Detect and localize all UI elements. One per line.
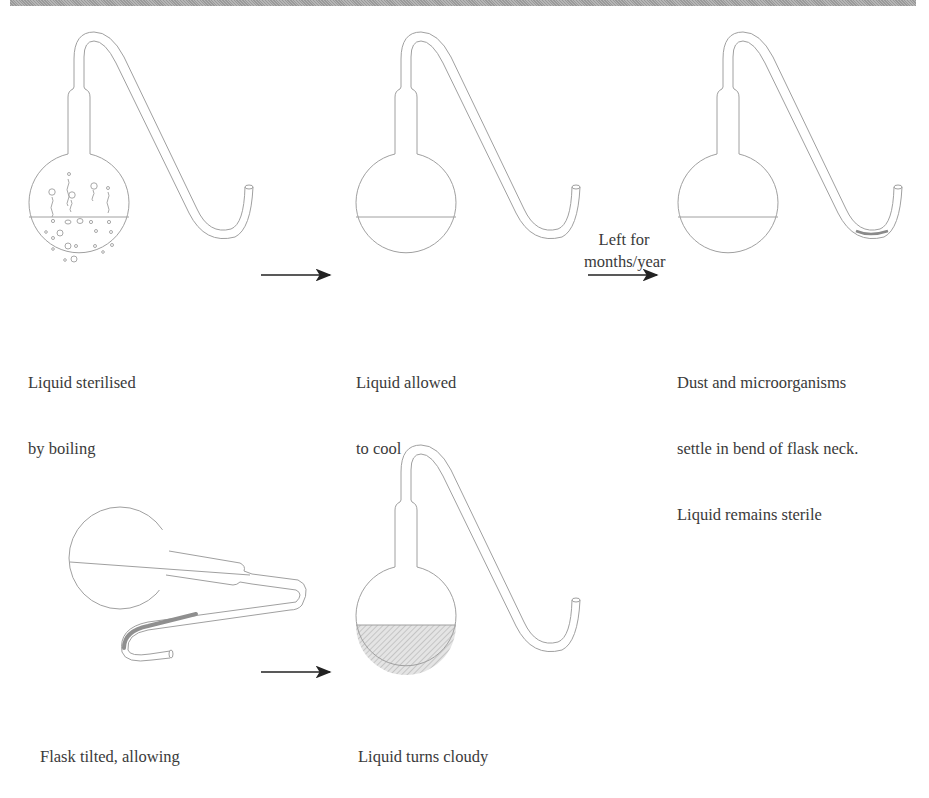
deposit-in-neck bbox=[856, 231, 888, 234]
flask-stage-2 bbox=[356, 32, 580, 253]
flask-stage-4-tilted bbox=[69, 507, 306, 661]
flask-stage-3 bbox=[678, 32, 902, 253]
caption-stage-3: Dust and microorganisms settle in bend o… bbox=[677, 328, 858, 548]
caption-stage-4: Flask tilted, allowing liquid to come in… bbox=[40, 702, 225, 798]
arrow-2-3-label: Left for months/year bbox=[584, 229, 664, 273]
caption-stage-5: Liquid turns cloudy due to microbial gro… bbox=[358, 702, 517, 798]
caption-stage-1: Liquid sterilised by boiling bbox=[28, 328, 136, 482]
caption-stage-2: Liquid allowed to cool bbox=[356, 328, 456, 482]
liquid-in-neck bbox=[124, 614, 196, 648]
flask-stage-1 bbox=[29, 32, 253, 262]
